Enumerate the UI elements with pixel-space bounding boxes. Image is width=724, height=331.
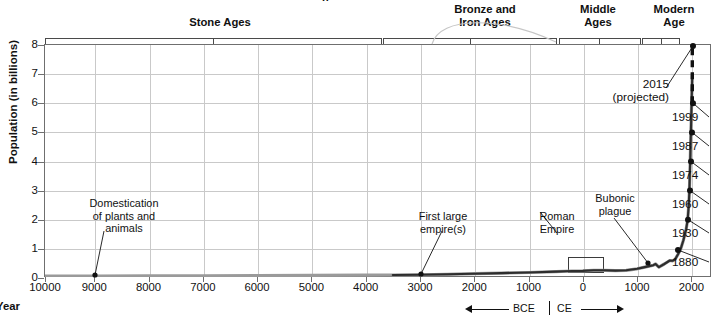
y-tickmark-2 xyxy=(38,220,44,221)
x-tick-9000bce: 9000 xyxy=(82,281,107,293)
y-tick-1: 1 xyxy=(20,242,38,254)
y-tickmark-7 xyxy=(38,74,44,75)
annotation-bubonic-plague: Bubonic plague xyxy=(573,192,657,217)
bce-ce-divider xyxy=(549,301,550,315)
gridline-x-1000bce xyxy=(530,45,531,276)
gridline-x-0 xyxy=(584,45,585,276)
gridline-x-5000 xyxy=(312,45,313,276)
roman-empire-box xyxy=(568,257,604,273)
era-band: Stone Ages Bronze andIron Ages MiddleAge… xyxy=(0,0,724,46)
x-tick-1000ce: 1000 xyxy=(625,281,650,293)
x-tick-5000bce: 5000 xyxy=(299,281,324,293)
y-tickmark-3 xyxy=(38,191,44,192)
bce-ce-indicator: BCE CE xyxy=(465,300,645,316)
x-tick-3000bce: 3000 xyxy=(407,281,432,293)
x-tick-7000bce: 7000 xyxy=(190,281,215,293)
gridline-x-9000 xyxy=(95,45,96,276)
era-label-modern-age: ModernAge xyxy=(634,3,714,28)
year-label-2015: 2015 (projected) xyxy=(597,78,669,103)
y-tick-5: 5 xyxy=(20,125,38,137)
x-tick-6000bce: 6000 xyxy=(245,281,270,293)
era-label-bronze-iron-ages: Bronze andIron Ages xyxy=(420,3,550,28)
gridline-x-3000 xyxy=(421,45,422,276)
y-tickmark-0 xyxy=(38,278,44,279)
y-tick-2: 2 xyxy=(20,213,38,225)
gridline-x-4000 xyxy=(367,45,368,276)
gridline-x-2000 xyxy=(475,45,476,276)
year-label-1930: 1930 xyxy=(672,226,698,240)
gridline-x-8000 xyxy=(150,45,151,276)
y-tickmark-6 xyxy=(38,103,44,104)
ce-arrow-icon xyxy=(617,305,624,313)
ce-label: CE xyxy=(557,302,572,314)
y-tick-4: 4 xyxy=(20,155,38,167)
y-tick-7: 7 xyxy=(20,67,38,79)
gridline-x-7000 xyxy=(204,45,205,276)
x-tick-1000bce: 1000 xyxy=(516,281,541,293)
year-label-1960: 1960 xyxy=(672,197,698,211)
annotation-first-empire: First large empire(s) xyxy=(385,210,501,235)
y-tick-8: 8 xyxy=(20,38,38,50)
gridline-y-5 xyxy=(45,132,710,133)
x-tick-0: 0 xyxy=(580,281,586,293)
y-tickmark-4 xyxy=(38,162,44,163)
year-label-1974: 1974 xyxy=(672,168,698,182)
x-tick-2000bce: 2000 xyxy=(462,281,487,293)
y-axis-title: Population (in billions) xyxy=(7,0,19,207)
era-label-middle-ages: MiddleAges xyxy=(562,3,634,28)
gridline-y-6 xyxy=(45,103,710,104)
gridline-x-6000 xyxy=(258,45,259,276)
x-tick-2000ce: 2000 xyxy=(679,281,704,293)
gridline-y-4 xyxy=(45,162,710,163)
gridline-y-7 xyxy=(45,74,710,75)
x-axis-title: Year xyxy=(0,300,370,312)
year-label-1880: 1880 xyxy=(672,255,698,269)
year-label-1987: 1987 xyxy=(672,139,698,153)
x-tick-4000bce: 4000 xyxy=(353,281,378,293)
y-tickmark-8 xyxy=(38,45,44,46)
y-tickmark-1 xyxy=(38,249,44,250)
bce-label: BCE xyxy=(513,302,535,314)
gridline-y-1 xyxy=(45,249,710,250)
x-tick-10000bce: 10000 xyxy=(29,281,60,293)
x-tick-8000bce: 8000 xyxy=(136,281,161,293)
y-tickmark-5 xyxy=(38,132,44,133)
y-tick-6: 6 xyxy=(20,96,38,108)
era-label-stone-ages: Stone Ages xyxy=(140,16,300,29)
annotation-domestication: Domestication of plants and animals xyxy=(64,197,184,235)
population-growth-chart: n Stone Ages Bronze andIron Ages MiddleA… xyxy=(0,0,724,331)
year-label-1999: 1999 xyxy=(672,110,698,124)
gridline-x-2000ce xyxy=(692,45,693,276)
y-tick-3: 3 xyxy=(20,184,38,196)
